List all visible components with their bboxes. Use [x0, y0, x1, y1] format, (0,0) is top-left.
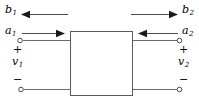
two-port-box — [71, 32, 133, 96]
label-b2: b2 — [182, 4, 194, 15]
output-top-lead — [133, 38, 182, 43]
label-a2: a2 — [182, 25, 193, 36]
label-a1-subscript: 1 — [12, 30, 16, 38]
polarity-minus-left: − — [13, 74, 22, 85]
output-bottom-lead — [133, 87, 182, 92]
label-v2: v2 — [178, 56, 189, 67]
a2-arrow — [138, 30, 178, 37]
label-a2-subscript: 2 — [189, 30, 193, 38]
label-v1-subscript: 1 — [19, 61, 23, 69]
label-b1: b1 — [5, 4, 17, 15]
a1-arrow — [22, 30, 65, 37]
polarity-plus-right: + — [179, 44, 188, 55]
input-top-lead — [18, 38, 70, 43]
label-b2-subscript: 2 — [190, 9, 194, 17]
label-v2-subscript: 2 — [185, 61, 189, 69]
two-port-network-figure: b1 b2 a1 a2 v1 v2 + − + − — [0, 0, 199, 102]
label-a1: a1 — [5, 25, 16, 36]
b2-arrow — [131, 11, 178, 18]
polarity-plus-left: + — [13, 44, 22, 55]
terminal-input-bottom — [19, 87, 24, 92]
input-bottom-lead — [19, 87, 70, 92]
polarity-minus-right: − — [179, 74, 188, 85]
b1-arrow — [21, 11, 68, 18]
label-v1: v1 — [12, 56, 23, 67]
label-b1-subscript: 1 — [13, 9, 17, 17]
terminal-output-bottom — [177, 87, 182, 92]
circuit-schematic — [0, 0, 199, 102]
